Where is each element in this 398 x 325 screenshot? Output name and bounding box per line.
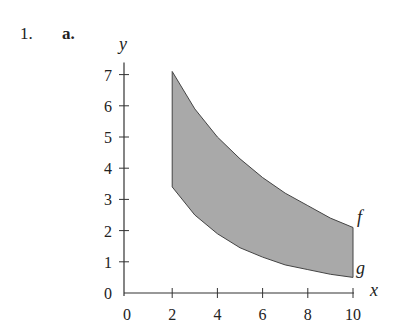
y-tick-label: 5 xyxy=(104,129,112,146)
x-tick-label: 0 xyxy=(123,306,131,323)
y-tick-label: 4 xyxy=(104,160,112,177)
f-label: f xyxy=(357,207,365,227)
x-tick-label: 2 xyxy=(168,306,176,323)
y-tick-label: 6 xyxy=(104,98,112,115)
shaded-region xyxy=(172,71,353,277)
x-tick-label: 6 xyxy=(259,306,267,323)
chart: 024681001234567xyfg xyxy=(0,0,398,325)
x-tick-label: 8 xyxy=(304,306,312,323)
y-tick-label: 7 xyxy=(104,67,112,84)
y-axis-label: y xyxy=(117,34,127,54)
y-tick-label: 0 xyxy=(104,285,112,302)
x-tick-label: 4 xyxy=(213,306,221,323)
x-axis-label: x xyxy=(369,280,378,300)
g-label: g xyxy=(356,258,365,278)
y-tick-label: 1 xyxy=(104,254,112,271)
x-tick-label: 10 xyxy=(345,306,361,323)
y-tick-label: 2 xyxy=(104,223,112,240)
y-tick-label: 3 xyxy=(104,191,112,208)
